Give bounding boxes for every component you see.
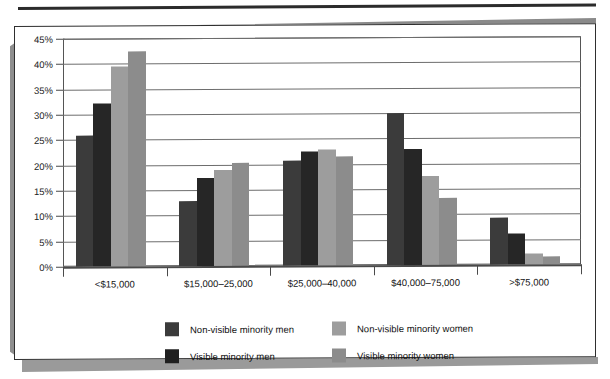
y-axis-tick-label: 10%: [19, 212, 53, 222]
y-axis-tick-label: 35%: [19, 85, 53, 95]
bar-group: [179, 38, 249, 266]
x-axis-labels: <$15,000$15,000–25,000$25,000–40,000$40,…: [63, 276, 581, 295]
x-axis-tick: [167, 267, 168, 276]
x-axis-category-label: $25,000–40,000: [288, 277, 357, 288]
y-axis-tick-label: 0%: [19, 263, 53, 273]
chart-legend: Non-visible minority menNon-visible mino…: [165, 321, 495, 375]
bar: [490, 217, 508, 264]
y-axis-tick-label: 15%: [19, 187, 53, 197]
legend-item[interactable]: Visible minority women: [332, 348, 454, 363]
bar: [214, 170, 232, 266]
y-axis-tick-label: 30%: [19, 111, 53, 121]
bar: [404, 149, 422, 265]
legend-label: Visible minority men: [190, 350, 275, 361]
legend-label: Visible minority women: [357, 349, 454, 360]
bar: [111, 67, 129, 267]
x-axis-category-label: $15,000–25,000: [184, 278, 253, 289]
y-axis-tick-label: 45%: [19, 35, 53, 45]
legend-label: Non-visible minority women: [357, 322, 473, 334]
bar: [439, 198, 457, 265]
bars-layer: [63, 36, 581, 267]
bar: [232, 163, 250, 266]
x-axis-ticks: [15, 24, 595, 27]
bar: [301, 152, 319, 266]
x-axis-tick: [270, 267, 271, 276]
top-rule-decoration: [18, 3, 596, 10]
legend-label: Non-visible minority men: [190, 323, 294, 335]
bar: [179, 201, 197, 266]
y-axis-labels: 45%40%35%30%25%20%15%10%5%0%: [15, 39, 53, 268]
legend-item[interactable]: Non-visible minority women: [332, 321, 473, 336]
bar: [197, 178, 215, 266]
x-axis-tick: [63, 268, 64, 277]
x-axis-tick: [581, 265, 582, 274]
x-axis-category-label: >$75,000: [509, 276, 549, 287]
bar-group: [283, 37, 353, 265]
legend-swatch-icon: [332, 321, 346, 335]
bar-group: [387, 37, 457, 265]
chart-card: 45%40%35%30%25%20%15%10%5%0% <$15,000$15…: [14, 23, 596, 360]
x-axis-tick: [374, 266, 375, 275]
bar-group: [490, 36, 560, 264]
legend-swatch-icon: [165, 322, 179, 336]
bar: [525, 254, 543, 265]
bar: [422, 176, 440, 265]
bar: [543, 256, 561, 264]
bar-group: [76, 38, 146, 266]
bar: [76, 136, 94, 267]
plot-area: [63, 36, 581, 267]
x-axis-tick: [477, 266, 478, 275]
scanned-page: 45%40%35%30%25%20%15%10%5%0% <$15,000$15…: [0, 0, 610, 379]
bar: [336, 156, 354, 265]
legend-swatch-icon: [332, 348, 346, 362]
bar: [93, 104, 111, 267]
y-axis-tick-label: 40%: [19, 60, 53, 70]
bar: [318, 150, 336, 266]
bar-chart: 45%40%35%30%25%20%15%10%5%0% <$15,000$15…: [15, 24, 595, 359]
x-axis-category-label: <$15,000: [95, 278, 135, 289]
bar: [128, 51, 146, 266]
bar: [508, 233, 526, 264]
bar: [283, 161, 301, 266]
y-axis-tick-label: 25%: [19, 136, 53, 146]
legend-item[interactable]: Non-visible minority men: [165, 322, 294, 337]
y-axis-tick-label: 20%: [19, 161, 53, 171]
bar: [387, 113, 405, 265]
legend-item[interactable]: Visible minority men: [165, 349, 275, 364]
legend-swatch-icon: [165, 349, 179, 363]
y-axis-ticks: [15, 24, 595, 27]
x-axis-category-label: $40,000–75,000: [391, 277, 460, 288]
y-axis-tick-label: 5%: [19, 237, 53, 247]
